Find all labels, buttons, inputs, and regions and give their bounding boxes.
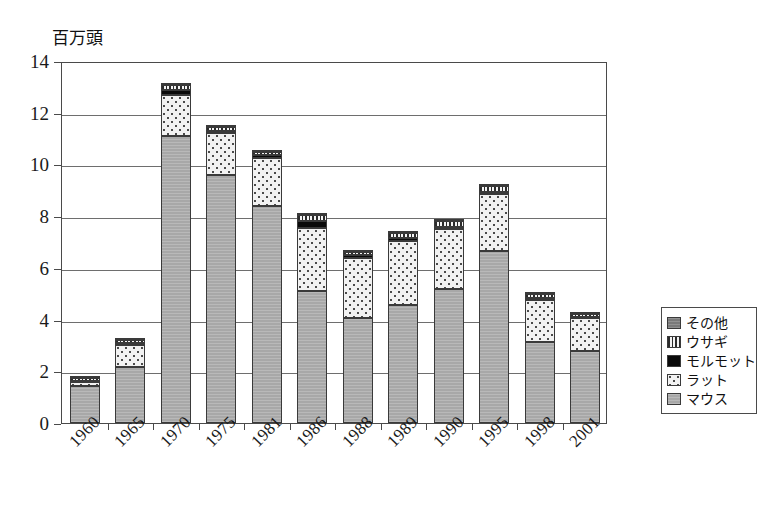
y-axis-tick-label: 10 (7, 155, 49, 174)
bar-segment-mouse (434, 289, 464, 423)
legend-label: その他 (686, 316, 728, 330)
bar-segment-rat (115, 345, 145, 367)
bar-segment-mouse (343, 318, 373, 423)
bar-segment-other (206, 125, 236, 127)
bar-segment-other (343, 250, 373, 252)
x-axis-tick (517, 423, 518, 430)
x-axis-tick (563, 423, 564, 430)
bar-segment-rat (70, 382, 100, 385)
bar-segment-other (70, 376, 100, 378)
y-axis-tick (54, 269, 61, 270)
x-axis-tick (381, 423, 382, 430)
bar-segment-mouse (161, 136, 191, 423)
bar-segment-mouse (525, 342, 555, 423)
bar-segment-mouse (115, 367, 145, 423)
legend-label: モルモット (686, 354, 756, 368)
legend-item: モルモット (667, 351, 751, 370)
legend-item: ラット (667, 370, 751, 389)
y-axis-tick-label: 6 (7, 259, 49, 278)
y-axis-tick-label: 2 (7, 362, 49, 381)
bar-segment-rat (479, 194, 509, 251)
bar-segment-rabbit (479, 186, 509, 191)
x-axis-tick (199, 423, 200, 430)
y-axis-tick (54, 62, 61, 63)
bar-segment-guinea-pig (252, 155, 282, 158)
legend-swatch (667, 336, 681, 348)
bar-segment-other (570, 312, 600, 314)
x-axis-tick (335, 423, 336, 430)
legend: その他ウサギモルモットラットマウス (661, 307, 757, 414)
bar-segment-other (479, 184, 509, 186)
bar-segment-rabbit (297, 215, 327, 221)
bar-segment-other (161, 83, 191, 85)
bar-segment-guinea-pig (479, 192, 509, 195)
bar-segment-rabbit (525, 294, 555, 298)
plot-area (61, 62, 607, 424)
bar-segment-mouse (570, 351, 600, 423)
y-axis-tick (54, 165, 61, 166)
y-axis-tick (54, 217, 61, 218)
bar-segment-guinea-pig (206, 131, 236, 134)
bar-segment-rabbit (343, 252, 373, 255)
bar-segment-guinea-pig (525, 298, 555, 300)
bar-segment-guinea-pig (161, 90, 191, 95)
bar-segment-rabbit (115, 340, 145, 343)
legend-swatch (667, 355, 681, 367)
y-axis-tick (54, 321, 61, 322)
bar-stack (161, 61, 191, 423)
bar-segment-rat (206, 133, 236, 174)
bar-stack (434, 61, 464, 423)
x-axis-tick (153, 423, 154, 430)
y-axis-tick-label: 12 (7, 104, 49, 123)
y-axis-tick-label: 0 (7, 414, 49, 433)
bar-segment-mouse (252, 206, 282, 423)
bar-segment-rabbit (570, 314, 600, 317)
bar-segment-rat (570, 318, 600, 350)
bar-segment-rabbit (388, 233, 418, 238)
y-axis-tick (54, 424, 61, 425)
bar-segment-rabbit (434, 221, 464, 226)
bar-segment-rat (434, 229, 464, 288)
legend-item: ウサギ (667, 332, 751, 351)
legend-label: ウサギ (686, 335, 728, 349)
legend-swatch (667, 393, 681, 405)
bar-segment-rat (525, 300, 555, 341)
x-axis-tick (472, 423, 473, 430)
bar-stack (115, 61, 145, 423)
bar-stack (343, 61, 373, 423)
bar-segment-rabbit (70, 378, 100, 381)
stacked-bar-chart: 百万頭 02468101214 196019651970197519811986… (0, 0, 765, 508)
legend-item: マウス (667, 389, 751, 408)
bar-segment-other (388, 231, 418, 233)
y-axis-tick-label: 14 (7, 52, 49, 71)
bar-stack (570, 61, 600, 423)
bar-segment-rat (343, 258, 373, 319)
y-axis-tick (54, 372, 61, 373)
bar-segment-other (115, 338, 145, 340)
bar-segment-rat (297, 228, 327, 291)
bar-segment-mouse (206, 175, 236, 423)
bar-segment-rabbit (206, 127, 236, 131)
bar-segment-mouse (479, 251, 509, 423)
legend-swatch (667, 317, 681, 329)
bar-segment-other (252, 150, 282, 152)
bar-stack (252, 61, 282, 423)
bar-segment-mouse (388, 305, 418, 423)
bar-segment-mouse (297, 291, 327, 423)
bar-segment-rat (252, 158, 282, 206)
bar-segment-other (525, 292, 555, 294)
bar-segment-guinea-pig (434, 227, 464, 230)
bar-segment-guinea-pig (70, 380, 100, 382)
bar-segment-rat (388, 241, 418, 306)
legend-label: マウス (686, 392, 728, 406)
bar-segment-rabbit (252, 152, 282, 156)
bar-stack (525, 61, 555, 423)
bar-segment-other (434, 219, 464, 221)
legend-label: ラット (686, 373, 728, 387)
bar-stack (479, 61, 509, 423)
bar-segment-guinea-pig (115, 343, 145, 345)
bar-segment-other (297, 213, 327, 215)
bar-stack (388, 61, 418, 423)
bar-stack (70, 61, 100, 423)
x-axis-tick (290, 423, 291, 430)
